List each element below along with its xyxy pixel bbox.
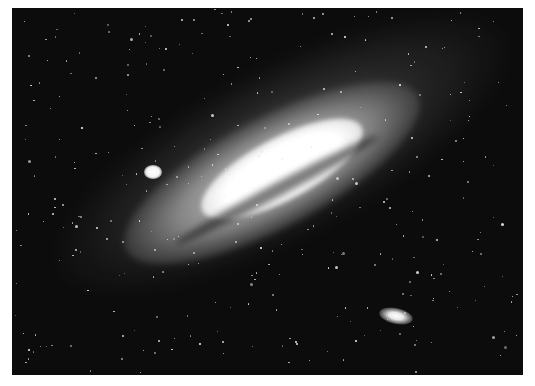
star bbox=[331, 33, 333, 35]
star bbox=[188, 183, 189, 184]
star bbox=[201, 176, 202, 177]
star bbox=[119, 275, 120, 276]
star bbox=[272, 294, 274, 296]
star bbox=[248, 20, 250, 22]
star bbox=[392, 258, 393, 259]
star bbox=[431, 342, 432, 343]
star bbox=[251, 275, 252, 276]
star bbox=[354, 16, 355, 17]
star bbox=[256, 204, 258, 206]
star bbox=[288, 123, 289, 124]
star bbox=[352, 178, 353, 179]
star bbox=[469, 116, 470, 117]
star bbox=[355, 340, 356, 341]
star bbox=[511, 301, 512, 302]
star bbox=[159, 48, 160, 49]
star bbox=[340, 91, 342, 93]
star bbox=[173, 238, 175, 240]
star bbox=[59, 139, 60, 140]
star bbox=[480, 253, 482, 255]
star bbox=[54, 207, 55, 208]
star bbox=[399, 84, 400, 85]
star bbox=[55, 156, 56, 157]
star bbox=[504, 331, 505, 332]
star bbox=[198, 263, 199, 264]
star bbox=[201, 33, 202, 34]
star bbox=[162, 271, 164, 273]
star bbox=[199, 343, 200, 344]
star bbox=[322, 13, 324, 15]
star-field bbox=[12, 8, 523, 375]
star bbox=[383, 201, 385, 203]
star bbox=[355, 71, 356, 72]
star bbox=[425, 46, 426, 47]
star bbox=[469, 100, 470, 101]
star bbox=[478, 36, 479, 37]
star bbox=[28, 213, 29, 214]
star bbox=[166, 184, 167, 185]
star bbox=[40, 346, 41, 347]
star bbox=[237, 67, 238, 68]
star bbox=[80, 251, 81, 252]
star bbox=[501, 223, 504, 226]
star bbox=[96, 227, 98, 229]
star bbox=[451, 20, 452, 21]
star bbox=[80, 216, 82, 218]
star bbox=[367, 307, 368, 308]
star bbox=[301, 249, 302, 250]
star bbox=[432, 300, 433, 301]
star bbox=[493, 21, 494, 22]
star bbox=[498, 82, 499, 83]
star bbox=[422, 236, 424, 238]
star bbox=[122, 241, 124, 243]
star bbox=[75, 249, 77, 251]
star bbox=[282, 345, 283, 346]
star bbox=[317, 114, 318, 115]
star bbox=[328, 267, 329, 268]
star bbox=[442, 48, 443, 49]
star bbox=[365, 39, 366, 40]
star bbox=[271, 91, 273, 93]
star bbox=[433, 278, 434, 279]
star bbox=[223, 74, 224, 75]
star bbox=[151, 231, 152, 232]
star bbox=[460, 92, 461, 93]
star bbox=[151, 116, 152, 117]
star bbox=[59, 260, 60, 261]
star bbox=[16, 283, 17, 284]
star bbox=[158, 340, 160, 342]
star bbox=[24, 21, 25, 22]
star bbox=[403, 235, 404, 236]
star bbox=[512, 296, 513, 297]
star bbox=[62, 204, 64, 206]
star bbox=[431, 274, 432, 275]
star bbox=[386, 198, 388, 200]
star bbox=[39, 82, 40, 83]
star bbox=[55, 36, 56, 37]
star bbox=[345, 138, 347, 140]
star bbox=[311, 146, 312, 147]
star bbox=[296, 343, 298, 345]
star bbox=[309, 360, 310, 361]
star bbox=[87, 290, 88, 291]
star bbox=[478, 28, 479, 29]
star bbox=[493, 165, 494, 166]
star bbox=[30, 85, 31, 86]
star bbox=[95, 77, 97, 79]
star bbox=[74, 162, 75, 163]
star bbox=[302, 13, 303, 14]
star bbox=[179, 44, 180, 45]
star bbox=[444, 47, 445, 48]
star bbox=[399, 333, 400, 334]
star bbox=[188, 264, 189, 265]
star bbox=[59, 96, 60, 97]
star bbox=[214, 9, 215, 10]
star bbox=[396, 224, 397, 225]
astrophotograph bbox=[12, 8, 523, 375]
star bbox=[74, 168, 75, 169]
star bbox=[460, 12, 461, 13]
star bbox=[143, 350, 144, 351]
star bbox=[146, 63, 147, 64]
star bbox=[391, 170, 392, 171]
star bbox=[174, 338, 175, 339]
